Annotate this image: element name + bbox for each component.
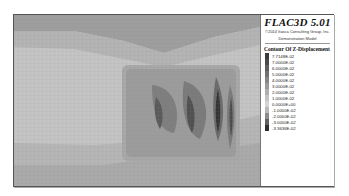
app-title: FLAC3D 5.01 (261, 16, 334, 28)
legend-entry: -3.3636E-02 (265, 125, 334, 131)
legend-entries: 7.7148E-02 7.0000E-02 6.0000E-02 5.0000E… (265, 53, 334, 131)
color-swatch (265, 125, 269, 131)
contour-plot (14, 15, 260, 186)
model-subtitle: Demonstration Model (265, 36, 330, 44)
legend-panel: FLAC3D 5.01 ©2014 Itasca Consulting Grou… (260, 15, 334, 186)
contour-title: Contour Of Z-Displacement (264, 46, 334, 52)
model-view[interactable] (14, 15, 260, 186)
copyright-text: ©2014 Itasca Consulting Group, Inc. (261, 29, 334, 34)
plot-window: FLAC3D 5.01 ©2014 Itasca Consulting Grou… (13, 14, 334, 187)
